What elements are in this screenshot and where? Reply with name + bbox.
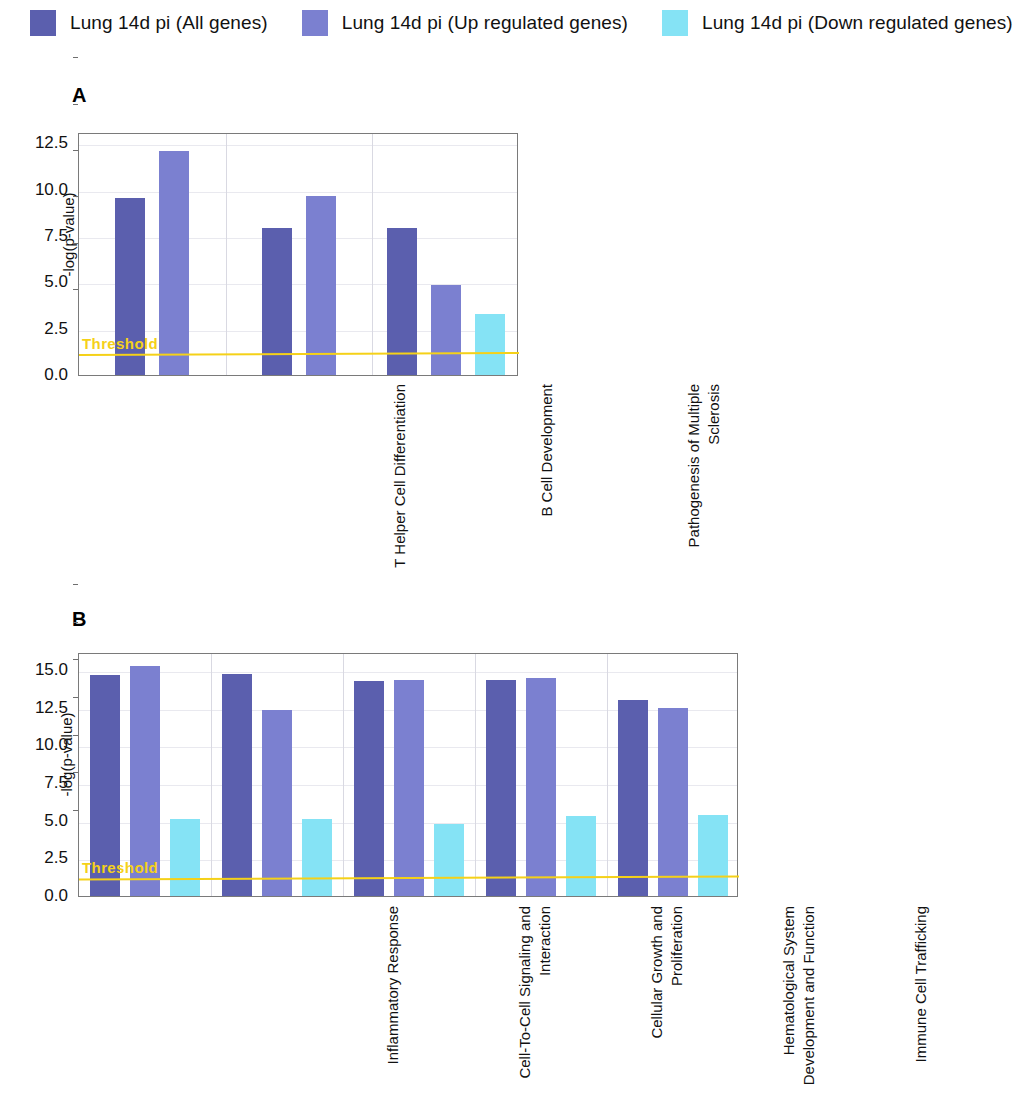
bar (354, 681, 384, 896)
category-label: Cell-To-Cell Signaling and Interaction (515, 906, 556, 1100)
gridline (79, 192, 517, 193)
bar (618, 700, 648, 896)
y-tick-mark (73, 772, 78, 773)
group-separator (607, 654, 608, 896)
y-tick-mark (73, 150, 78, 151)
legend-swatch-up-regulated-genes (302, 10, 328, 36)
y-tick-label: 7.5 (4, 773, 68, 793)
bar (431, 285, 461, 375)
y-tick-label: 15.0 (4, 660, 68, 680)
legend-swatch-down-regulated-genes (662, 10, 688, 36)
y-tick-mark (73, 104, 78, 105)
legend-label-up-regulated-genes: Lung 14d pi (Up regulated genes) (342, 12, 628, 34)
panel-b: B -log(p-value) Threshold 0.02.55.07.510… (0, 566, 1030, 1100)
y-tick-label: 5.0 (4, 272, 68, 292)
bar (170, 819, 200, 896)
bar (434, 824, 464, 896)
group-separator (211, 654, 212, 896)
bar (159, 151, 189, 375)
legend-item-up-regulated-genes: Lung 14d pi (Up regulated genes) (302, 10, 628, 36)
figure-legend: Lung 14d pi (All genes) Lung 14d pi (Up … (0, 0, 1030, 46)
y-tick-mark (73, 57, 78, 58)
bar (566, 816, 596, 896)
y-tick-label: 2.5 (4, 848, 68, 868)
threshold-label: Threshold (82, 335, 158, 352)
bar (302, 819, 332, 896)
y-tick-mark (73, 243, 78, 244)
gridline (79, 145, 517, 146)
bar (698, 815, 728, 896)
bar (306, 196, 336, 375)
threshold-label: Threshold (82, 859, 158, 876)
y-tick-mark (73, 196, 78, 197)
legend-label-down-regulated-genes: Lung 14d pi (Down regulated genes) (702, 12, 1013, 34)
y-tick-label: 10.0 (4, 735, 68, 755)
group-separator (372, 134, 373, 375)
y-tick-label: 0.0 (4, 886, 68, 906)
legend-label-all-genes: Lung 14d pi (All genes) (70, 12, 268, 34)
y-tick-mark (73, 735, 78, 736)
bar (475, 314, 505, 375)
bar (486, 680, 516, 896)
y-tick-mark (73, 810, 78, 811)
category-label: Cellular Growth and Proliferation (647, 906, 688, 1100)
gridline (79, 672, 737, 673)
panel-b-letter: B (72, 608, 86, 631)
legend-item-down-regulated-genes: Lung 14d pi (Down regulated genes) (662, 10, 1013, 36)
panel-a-plot-area: Threshold (78, 133, 518, 376)
y-tick-mark (73, 659, 78, 660)
y-tick-label: 7.5 (4, 226, 68, 246)
y-tick-mark (73, 697, 78, 698)
group-separator (226, 134, 227, 375)
legend-swatch-all-genes (30, 10, 56, 36)
y-tick-label: 12.5 (4, 698, 68, 718)
bar (262, 710, 292, 896)
y-tick-label: 5.0 (4, 811, 68, 831)
group-separator (343, 654, 344, 896)
bar (658, 708, 688, 896)
y-tick-label: 10.0 (4, 180, 68, 200)
y-tick-mark (73, 622, 78, 623)
group-separator (475, 654, 476, 896)
y-tick-mark (73, 584, 78, 585)
legend-item-all-genes: Lung 14d pi (All genes) (30, 10, 268, 36)
y-tick-label: 12.5 (4, 133, 68, 153)
y-tick-mark (73, 289, 78, 290)
panel-a: A -log(p-value) Threshold 0.02.55.07.510… (0, 46, 1030, 566)
category-label: Immune Cell Trafficking (911, 906, 931, 1100)
category-label: Hematological System Development and Fun… (779, 906, 820, 1100)
bar (394, 680, 424, 896)
category-label: Inflammatory Response (383, 906, 403, 1100)
y-tick-label: 0.0 (4, 365, 68, 385)
bar (222, 674, 252, 896)
y-tick-label: 2.5 (4, 319, 68, 339)
bar (526, 678, 556, 896)
panel-b-plot-area: Threshold (78, 653, 738, 897)
